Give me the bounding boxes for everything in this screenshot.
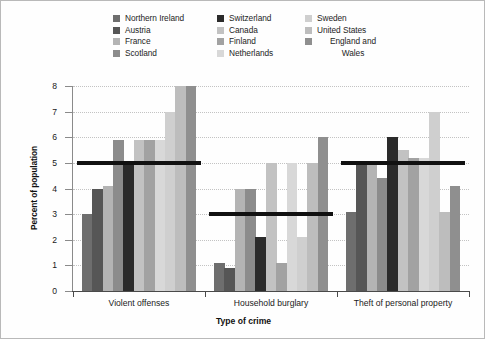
bar	[186, 86, 197, 291]
bar	[245, 189, 256, 292]
bar	[408, 158, 419, 291]
y-axis-tick-label: 8	[52, 81, 57, 91]
x-axis-title: Type of crime	[1, 316, 485, 326]
y-axis-tick	[65, 86, 72, 87]
x-axis-tick	[337, 291, 338, 297]
bar	[276, 263, 287, 291]
bar	[439, 212, 450, 291]
bar	[92, 189, 103, 292]
y-axis-tick	[65, 291, 72, 292]
bar	[307, 163, 318, 291]
gridline	[73, 137, 469, 139]
y-axis-title: Percent of population	[29, 146, 39, 230]
y-axis-tick-label: 0	[52, 286, 57, 296]
bar	[398, 150, 409, 291]
y-axis-tick-label: 5	[52, 158, 57, 168]
bar	[123, 163, 134, 291]
bar	[356, 165, 367, 291]
bar	[429, 112, 440, 291]
bar	[82, 214, 93, 291]
bar	[224, 268, 235, 291]
bar	[165, 112, 176, 291]
x-axis-tick	[205, 291, 206, 297]
reference-line	[209, 212, 333, 216]
bar	[367, 163, 378, 291]
y-axis-tick-label: 6	[52, 132, 57, 142]
y-axis-tick-label: 3	[52, 209, 57, 219]
x-axis-group-label: Theft of personal property	[337, 298, 469, 308]
bar	[297, 237, 308, 291]
bar	[450, 186, 461, 291]
bar	[266, 163, 277, 291]
x-axis-group-label: Household burglary	[205, 298, 337, 308]
y-axis-tick	[65, 137, 72, 138]
gridline	[73, 112, 469, 114]
y-axis-tick-label: 2	[52, 235, 57, 245]
x-axis-line	[72, 291, 470, 292]
y-axis-tick	[65, 265, 72, 266]
bar	[377, 178, 388, 291]
bar	[287, 163, 298, 291]
y-axis-tick	[65, 214, 72, 215]
y-axis-tick	[65, 240, 72, 241]
bar	[255, 237, 266, 291]
bar	[346, 212, 357, 291]
y-axis-tick-label: 7	[52, 107, 57, 117]
reference-line	[341, 161, 465, 165]
y-axis-tick	[65, 163, 72, 164]
bar	[214, 263, 225, 291]
bar	[419, 158, 430, 291]
y-axis-tick	[65, 189, 72, 190]
bar	[175, 86, 186, 291]
y-axis-tick-label: 4	[52, 184, 57, 194]
chart-figure: Northern Ireland Austria France Scotland…	[0, 0, 485, 339]
reference-line	[77, 161, 201, 165]
bar	[235, 189, 246, 292]
bar	[103, 186, 114, 291]
x-axis-tick	[469, 291, 470, 297]
y-axis-tick-label: 1	[52, 260, 57, 270]
plot-canvas	[73, 86, 469, 291]
plot-area: Percent of population Type of crime 0123…	[1, 1, 485, 339]
x-axis-tick	[73, 291, 74, 297]
x-axis-group-label: Violent offenses	[73, 298, 205, 308]
y-axis-tick	[65, 112, 72, 113]
gridline	[73, 86, 469, 88]
